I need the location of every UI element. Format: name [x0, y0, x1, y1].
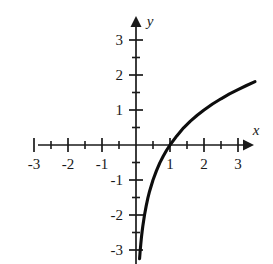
y-axis-group: 3 2 1 -1 -2 -3 y [111, 13, 154, 264]
y-tick-label: -3 [111, 242, 124, 258]
y-tick-label: -2 [111, 207, 124, 223]
y-tick-label: -1 [111, 172, 124, 188]
x-axis-label: x [252, 122, 260, 138]
x-tick-label: -2 [62, 156, 75, 172]
y-tick-label: 3 [116, 32, 124, 48]
y-axis-arrow-icon [131, 16, 142, 27]
y-tick-label: 2 [116, 67, 124, 83]
x-tick-label: 2 [200, 156, 208, 172]
x-tick-label: 1 [166, 156, 174, 172]
y-axis-label: y [145, 13, 154, 29]
y-tick-label: 1 [116, 102, 124, 118]
x-tick-label: -3 [28, 156, 41, 172]
x-tick-label: 3 [234, 156, 242, 172]
x-tick-label: -1 [96, 156, 109, 172]
logarithmic-function-graph: -3 -2 -1 1 2 3 x 3 [0, 0, 273, 264]
x-axis-group: -3 -2 -1 1 2 3 x [28, 122, 260, 172]
plot-svg: -3 -2 -1 1 2 3 x 3 [0, 0, 273, 264]
x-axis-arrow-icon [243, 140, 254, 151]
